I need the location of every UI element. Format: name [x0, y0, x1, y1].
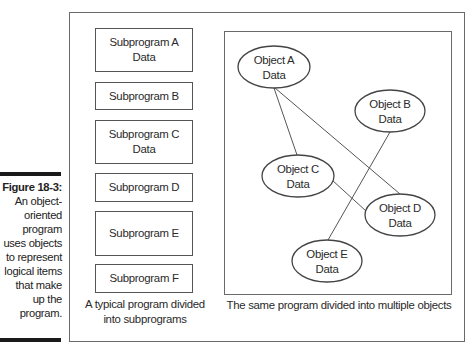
object-c-ellipse	[262, 155, 334, 197]
object-b-ellipse	[355, 90, 425, 132]
object-data: Data	[287, 178, 311, 190]
object-data: Data	[316, 263, 340, 275]
object-name: Object D	[379, 202, 421, 214]
object-name: Object E	[306, 248, 348, 260]
object-data: Data	[379, 113, 403, 125]
object-data: Data	[389, 217, 413, 229]
object-e-ellipse	[292, 240, 362, 282]
object-data: Data	[263, 69, 287, 81]
connector-a-c	[274, 88, 297, 155]
object-a-ellipse	[238, 46, 310, 88]
right-panel-caption: The same program divided into multiple o…	[226, 298, 452, 313]
object-name: Object C	[277, 163, 319, 175]
object-name: Object B	[369, 98, 410, 110]
object-name: Object A	[254, 54, 295, 66]
connector-c-d	[332, 180, 366, 211]
object-d-ellipse	[365, 194, 435, 236]
